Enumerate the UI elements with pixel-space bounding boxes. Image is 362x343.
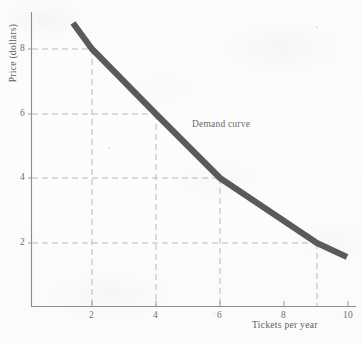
chart-figure: 2 4 6 8 10 8 6 4 2 Price (dollars) Ticke… [0,0,362,343]
x-tick-label-2: 2 [89,310,94,320]
x-axis-ticks [92,301,348,306]
plot-area [0,0,362,343]
y-tick-label-6: 6 [20,108,25,118]
x-tick-label-4: 4 [153,310,158,320]
demand-curve-annotation-label: Demand curve [192,119,250,129]
y-axis-title: Price (dollars) [8,11,18,95]
x-axis-title: Tickets per year [252,320,318,330]
guide-lines [32,49,317,306]
y-tick-label-8: 8 [20,43,25,53]
x-tick-label-6: 6 [217,310,222,320]
y-tick-label-4: 4 [20,172,25,182]
y-tick-label-2: 2 [20,237,25,247]
axes [31,12,356,307]
x-tick-label-10: 10 [343,310,353,320]
demand-curve-line [73,23,347,257]
x-tick-label-8: 8 [281,310,286,320]
